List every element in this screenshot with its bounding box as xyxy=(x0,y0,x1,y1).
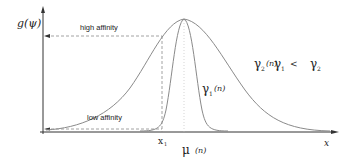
svg-text:<: < xyxy=(290,59,298,69)
svg-text:1: 1 xyxy=(209,90,213,97)
affinity-gaussian-diagram: g(ψ) high affinity low affinity x 1 μ (n… xyxy=(0,0,354,162)
svg-text:2: 2 xyxy=(261,65,265,72)
high-affinity-label: high affinity xyxy=(80,23,118,32)
svg-text:x: x xyxy=(158,136,163,146)
svg-text:1: 1 xyxy=(281,65,285,72)
svg-text:1: 1 xyxy=(164,141,167,147)
mu-label: μ (n) xyxy=(182,143,206,157)
high-affinity-arrow-icon xyxy=(44,34,50,38)
svg-text:(n): (n) xyxy=(214,84,225,93)
y-axis xyxy=(41,6,45,134)
y-axis-label: g(ψ) xyxy=(17,17,41,30)
gamma1-label: γ 1 (n) xyxy=(202,82,225,97)
y-axis-arrow-icon xyxy=(41,6,45,13)
svg-text:2: 2 xyxy=(317,65,321,72)
x-axis-label: x xyxy=(324,138,329,148)
x-axis-arrow-icon xyxy=(331,130,339,134)
svg-text:μ: μ xyxy=(182,143,190,157)
x-axis xyxy=(40,130,339,134)
gamma-relation: γ 1 < γ 2 xyxy=(274,57,321,72)
svg-text:(n): (n) xyxy=(195,146,206,155)
x1-label: x 1 xyxy=(158,136,167,147)
low-affinity-label: low affinity xyxy=(87,113,122,122)
